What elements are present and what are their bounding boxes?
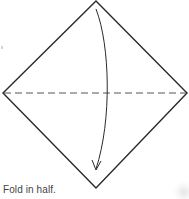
paper-square-outline <box>3 1 187 188</box>
fold-arrowhead-icon <box>92 160 101 170</box>
origami-diagram <box>0 0 189 199</box>
step-caption: Fold in half. <box>3 184 56 195</box>
fold-arrow-curve <box>96 9 107 169</box>
scan-speck <box>1 46 3 49</box>
scan-smudge <box>173 181 189 199</box>
